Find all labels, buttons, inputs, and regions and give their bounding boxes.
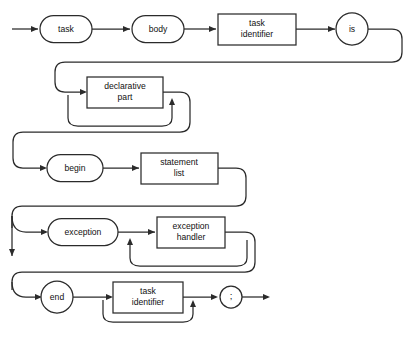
declarative-part-label-line2: part	[118, 92, 133, 102]
exception-label: exception	[65, 227, 102, 237]
entry-arrowhead	[31, 26, 38, 32]
node-body: body	[132, 16, 184, 43]
body-label: body	[149, 24, 168, 34]
arrowhead-exception	[41, 229, 48, 235]
node-exception: exception	[48, 219, 118, 246]
node-task-identifier: task identifier	[218, 14, 296, 45]
rail-into-exception	[12, 216, 46, 232]
arrowhead-taskid-skip	[190, 300, 196, 307]
arrowhead-declarative	[80, 89, 87, 95]
begin-label: begin	[64, 163, 85, 173]
arrowhead-taskid-end	[106, 294, 113, 300]
task-identifier-label-line2: identifier	[241, 29, 274, 39]
arrowhead-body	[123, 26, 130, 32]
railroad-diagram: task body task identifier is	[0, 0, 415, 348]
syntax-diagram-canvas: task body task identifier is	[0, 0, 415, 348]
arrowhead-exception-handler	[148, 229, 155, 235]
arrowhead-semicolon	[211, 294, 218, 300]
exception-handler-label-line2: handler	[177, 232, 206, 242]
exception-handler-label-line1: exception	[173, 221, 210, 231]
statement-list-label-line2: list	[174, 168, 185, 178]
exit-arrowhead	[263, 294, 270, 300]
arrowhead-handler-repeat	[127, 238, 133, 245]
task-identifier-end-label-line2: identifier	[132, 297, 165, 307]
node-semicolon: ;	[220, 286, 242, 308]
is-label: is	[349, 24, 355, 34]
semicolon-label: ;	[230, 290, 233, 301]
node-task-identifier-end: task identifier	[113, 282, 183, 313]
node-statement-list: statement list	[141, 153, 218, 184]
declarative-part-label-line1: declarative	[104, 81, 146, 91]
node-is: is	[336, 13, 368, 45]
node-begin: begin	[47, 155, 103, 182]
node-exception-handler: exception handler	[157, 217, 225, 248]
arrowhead-exception-bypass	[9, 249, 15, 256]
arrowhead-statementlist	[132, 165, 139, 171]
statement-list-label-line1: statement	[160, 157, 198, 167]
node-declarative-part: declarative part	[87, 77, 163, 108]
arrowhead-taskid	[209, 26, 216, 32]
end-label: end	[50, 292, 65, 302]
task-identifier-label-line1: task	[249, 18, 265, 28]
node-task: task	[40, 16, 92, 43]
task-label: task	[58, 24, 74, 34]
node-end: end	[41, 281, 73, 313]
arrowhead-is	[328, 26, 335, 32]
task-identifier-end-label-line1: task	[140, 286, 156, 296]
arrowhead-begin	[40, 165, 47, 171]
arrowhead-declarative-repeat	[169, 98, 175, 105]
